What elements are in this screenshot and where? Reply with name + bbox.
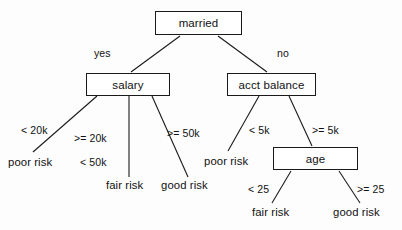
node-label: acct balance [239, 79, 305, 91]
leaf-fair-risk-salary: fair risk [106, 179, 143, 191]
leaf-poor-risk-salary: poor risk [8, 156, 52, 168]
leaf-fair-risk-age: fair risk [252, 206, 289, 218]
edge-label-gte-5k: >= 5k [312, 124, 339, 136]
node-label: married [179, 17, 219, 29]
edge-label-lt-50k: < 50k [80, 156, 106, 168]
node-age[interactable]: age [273, 147, 358, 170]
leaf-good-risk-salary: good risk [161, 179, 208, 191]
edge-label-gte-50k: >= 50k [167, 127, 200, 139]
node-salary[interactable]: salary [86, 73, 170, 96]
edge-label-no: no [277, 47, 289, 59]
node-label: salary [112, 79, 143, 91]
leaf-good-risk-age: good risk [333, 206, 380, 218]
edge-age-fair [272, 171, 291, 203]
node-acct_balance[interactable]: acct balance [227, 73, 316, 96]
decision-tree-diagram: marriedsalaryacct balanceage yesno< 20k>… [0, 0, 402, 230]
edge-label-lt-25: < 25 [248, 183, 269, 195]
edge-label-gte-20k: >= 20k [74, 132, 107, 144]
edge-label-lt-20k: < 20k [21, 124, 47, 136]
edge-married-acct [218, 36, 267, 72]
edge-acct-age [289, 96, 312, 146]
edge-label-lt-5k: < 5k [249, 124, 270, 136]
node-married[interactable]: married [155, 11, 242, 35]
edge-label-yes: yes [94, 47, 111, 59]
node-label: age [306, 153, 326, 165]
edge-married-salary [131, 36, 180, 72]
leaf-poor-risk-acct: poor risk [204, 155, 248, 167]
edge-label-gte-25: >= 25 [357, 183, 384, 195]
